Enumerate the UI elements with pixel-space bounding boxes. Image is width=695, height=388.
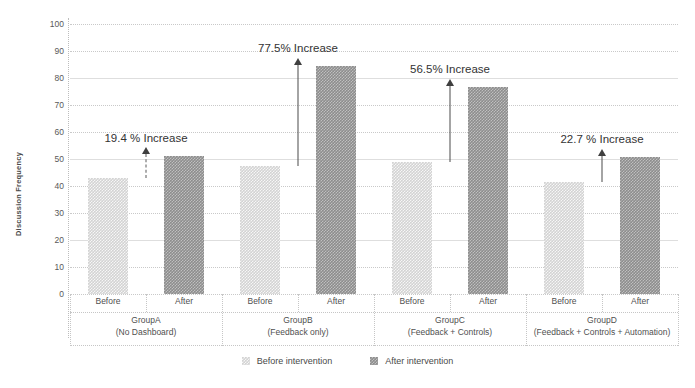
- increase-annotation-groupd: 22.7 % Increase: [572, 24, 632, 294]
- arrow-head-icon: [294, 58, 302, 65]
- legend-item-after[interactable]: After intervention: [370, 356, 453, 366]
- group-sublabel: (No Dashboard): [58, 326, 234, 338]
- arrow-head-icon: [142, 147, 150, 154]
- y-tick-80: 80: [55, 73, 64, 83]
- y-tick-40: 40: [55, 181, 64, 191]
- plot-area: 0 10 20 30 40 50 60 70 80 90 100 19.4 % …: [70, 24, 678, 294]
- group-name: GroupB: [283, 315, 312, 325]
- y-tick-30: 30: [55, 208, 64, 218]
- annotation-label: 19.4 % Increase: [104, 132, 187, 144]
- bar-chart: Discussion Frequency 0 10 20 30 40 50 60…: [0, 0, 695, 388]
- arrow-shaft: [298, 65, 299, 165]
- arrow-head-icon: [446, 79, 454, 86]
- x-label-after-groupc: After: [450, 296, 526, 306]
- group-sublabel: (Feedback + Controls): [362, 326, 538, 338]
- category-axis: BeforeAfterGroupA(No Dashboard)BeforeAft…: [70, 294, 678, 346]
- y-tick-90: 90: [55, 46, 64, 56]
- annotation-label: 77.5% Increase: [258, 42, 338, 54]
- y-tick-100: 100: [50, 19, 64, 29]
- group-name: GroupC: [435, 315, 465, 325]
- legend-swatch-before-icon: [242, 357, 250, 365]
- group-label-groupa: GroupA(No Dashboard): [58, 314, 234, 338]
- legend-swatch-after-icon: [370, 357, 378, 365]
- y-tick-50: 50: [55, 154, 64, 164]
- group-separator-end: [678, 294, 679, 346]
- x-label-before-groupa: Before: [70, 296, 146, 306]
- x-label-after-groupb: After: [298, 296, 374, 306]
- y-tick-70: 70: [55, 100, 64, 110]
- y-axis-line: [68, 18, 69, 338]
- group-label-groupc: GroupC(Feedback + Controls): [362, 314, 538, 338]
- x-label-before-groupc: Before: [374, 296, 450, 306]
- y-tick-0: 0: [59, 289, 64, 299]
- group-sublabel: (Feedback only): [210, 326, 386, 338]
- arrow-shaft: [450, 86, 451, 162]
- x-label-before-groupb: Before: [222, 296, 298, 306]
- annotation-label: 56.5% Increase: [410, 63, 490, 75]
- group-name: GroupD: [587, 315, 617, 325]
- y-tick-10: 10: [55, 262, 64, 272]
- arrow-shaft: [146, 154, 147, 177]
- arrow-shaft: [602, 156, 603, 182]
- chart-legend: Before intervention After intervention: [0, 356, 695, 366]
- increase-annotation-groupc: 56.5% Increase: [420, 24, 480, 294]
- x-label-after-groupd: After: [602, 296, 678, 306]
- y-tick-60: 60: [55, 127, 64, 137]
- x-label-after-groupa: After: [146, 296, 222, 306]
- increase-annotation-groupa: 19.4 % Increase: [116, 24, 176, 294]
- group-sublabel: (Feedback + Controls + Automation): [514, 326, 690, 338]
- y-axis-title: Discussion Frequency: [14, 152, 23, 236]
- group-name: GroupA: [131, 315, 160, 325]
- increase-annotation-groupb: 77.5% Increase: [268, 24, 328, 294]
- annotation-label: 22.7 % Increase: [560, 133, 643, 145]
- group-label-groupb: GroupB(Feedback only): [210, 314, 386, 338]
- legend-label-before: Before intervention: [257, 356, 333, 366]
- legend-item-before[interactable]: Before intervention: [242, 356, 333, 366]
- y-tick-20: 20: [55, 235, 64, 245]
- group-label-groupd: GroupD(Feedback + Controls + Automation): [514, 314, 690, 338]
- annotation-layer: 19.4 % Increase77.5% Increase56.5% Incre…: [70, 24, 678, 294]
- arrow-head-icon: [598, 149, 606, 156]
- x-label-before-groupd: Before: [526, 296, 602, 306]
- legend-label-after: After intervention: [385, 356, 453, 366]
